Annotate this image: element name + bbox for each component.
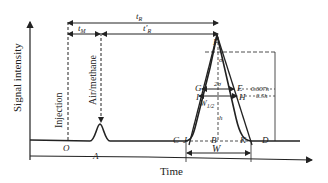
w-base-label: W: [212, 143, 222, 154]
point-D: D: [261, 135, 269, 145]
y-axis-label: Signal intensity: [11, 43, 23, 112]
air-methane-label: Air/methane: [87, 54, 98, 105]
tR-prime-label: t′R: [143, 23, 151, 34]
w-half-label: W1/2: [200, 99, 214, 109]
x-axis-label: Time: [160, 165, 183, 177]
point-A: A: [92, 151, 99, 161]
injection-label: Injection: [53, 92, 64, 128]
x-axis-cont: [148, 157, 312, 160]
chromatogram-diagram: Signal intensity Time Injection Air/meth…: [0, 0, 328, 183]
point-F: F: [212, 37, 219, 47]
point-C: C: [173, 135, 180, 145]
0607h-label: 0.607h: [251, 85, 269, 92]
point-H: H: [238, 92, 246, 102]
point-K: K: [239, 135, 247, 145]
tM-label: tM: [78, 23, 87, 34]
tangent-right: [217, 35, 252, 145]
tR-label: tR: [136, 11, 143, 22]
05h-label: 0.5h: [256, 92, 267, 99]
x-axis: [30, 156, 148, 157]
sigma-label: σ: [219, 56, 223, 64]
two-sigma-label: 2σ: [214, 80, 222, 88]
point-O: O: [63, 143, 70, 153]
tangent-left: [189, 35, 217, 145]
h-label: h: [219, 114, 223, 122]
